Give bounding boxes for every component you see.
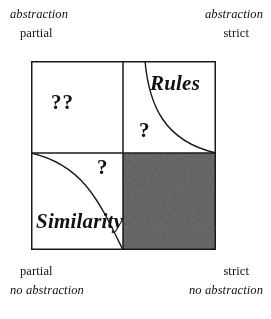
axis-label-bottom-left-degree: partial bbox=[20, 265, 84, 278]
axis-label-top-left: abstraction partial bbox=[10, 8, 68, 40]
axis-label-bottom-left: partial no abstraction bbox=[10, 265, 84, 297]
axis-label-bottom-right: strict no abstraction bbox=[189, 265, 263, 297]
region-label-similarity: Similarity bbox=[36, 211, 123, 232]
region-label-rules: Rules bbox=[150, 73, 200, 94]
axis-label-bottom-left-abstraction: no abstraction bbox=[10, 284, 84, 297]
axis-label-bottom-right-abstraction: no abstraction bbox=[189, 284, 263, 297]
axis-label-top-right-degree: strict bbox=[205, 27, 249, 40]
marker-top-left-quadrant: ?? bbox=[51, 92, 74, 113]
marker-bottom-left-quadrant: ? bbox=[97, 157, 109, 178]
matrix-box: ?? Rules ? ? Similarity bbox=[31, 61, 216, 250]
axis-label-top-right-abstraction: abstraction bbox=[205, 8, 263, 21]
quadrant-bottom-right-shading bbox=[123, 153, 216, 250]
figure-root: abstraction partial abstraction strict p… bbox=[0, 0, 271, 319]
axis-label-top-right: abstraction strict bbox=[205, 8, 263, 40]
axis-label-top-left-degree: partial bbox=[20, 27, 68, 40]
axis-label-bottom-right-degree: strict bbox=[189, 265, 249, 278]
axis-label-top-left-abstraction: abstraction bbox=[10, 8, 68, 21]
marker-top-right-quadrant: ? bbox=[139, 120, 151, 141]
